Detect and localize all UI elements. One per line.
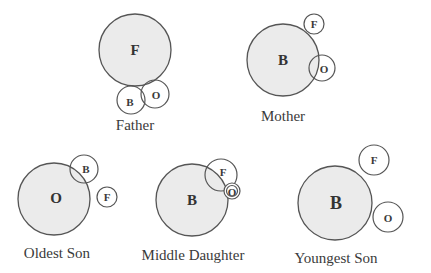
caption-oldest-son: Oldest Son (24, 245, 91, 261)
caption-youngest-son: Youngest Son (294, 250, 378, 266)
caption-mother: Mother (261, 108, 305, 124)
circle-f-label: F (371, 154, 378, 166)
circle-b-label: B (82, 163, 90, 175)
caption-middle-daughter: Middle Daughter (142, 247, 245, 263)
circle-f-label: F (104, 191, 111, 203)
circle-o-label: O (320, 63, 329, 75)
circle-o-label: O (152, 89, 161, 101)
circle-o-label: O (228, 186, 237, 198)
panel-mother: B F O Mother (247, 14, 335, 124)
circle-o-label: O (384, 212, 393, 224)
panel-middle-daughter: B F O Middle Daughter (142, 159, 245, 263)
panel-youngest-son: B F O Youngest Son (294, 145, 403, 266)
self-label: B (278, 52, 288, 68)
self-label: B (330, 193, 342, 213)
caption-father: Father (116, 117, 154, 133)
family-perception-diagram: F B O Father B F O Mother O B F Oldest S… (0, 0, 431, 273)
circle-f-label: F (311, 18, 318, 30)
panel-father: F B O Father (99, 14, 171, 133)
self-label: B (187, 192, 197, 208)
self-label: F (130, 42, 139, 58)
self-label: O (50, 190, 62, 206)
panel-oldest-son: O B F Oldest Son (18, 155, 117, 261)
circle-b-label: B (126, 96, 134, 108)
circle-f-label: F (220, 166, 227, 178)
